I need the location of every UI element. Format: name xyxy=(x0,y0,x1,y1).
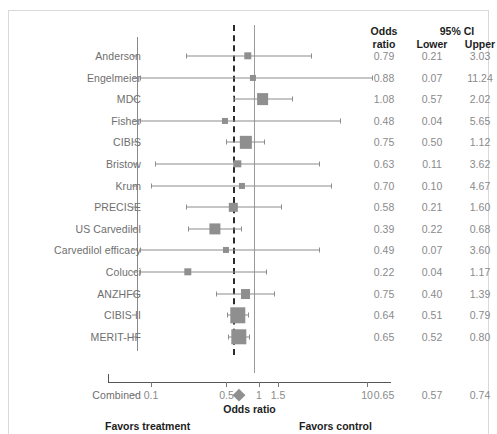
x-tick xyxy=(259,382,260,387)
cell-upper: 3.62 xyxy=(455,158,497,170)
row-tick xyxy=(132,185,137,186)
ci-end-cap xyxy=(331,183,332,188)
ci-end-cap xyxy=(155,162,156,167)
row-tick xyxy=(132,120,137,121)
study-label: Fisher xyxy=(0,115,141,127)
effect-marker xyxy=(250,75,256,81)
cell-upper: 1.39 xyxy=(455,288,497,300)
forest-plot: Odds ratio 95% CI Lower Upper Anderson0.… xyxy=(9,11,490,434)
ci-end-cap xyxy=(281,205,282,210)
ci-end-cap xyxy=(340,118,341,123)
ci-end-cap xyxy=(151,183,152,188)
study-label: Krum xyxy=(0,180,141,192)
row-tick xyxy=(132,207,137,208)
cell-upper: 1.12 xyxy=(455,136,497,148)
cell-lower: 0.10 xyxy=(409,180,455,192)
study-label: MERIT-HF xyxy=(0,331,141,343)
cell-or: 1.08 xyxy=(361,93,407,105)
cell-upper: 5.65 xyxy=(455,115,497,127)
x-tick xyxy=(226,382,227,387)
cell-or: 0.49 xyxy=(361,244,407,256)
cell-or: 0.22 xyxy=(361,266,407,278)
row-tick xyxy=(132,77,137,78)
cell-or: 0.63 xyxy=(361,158,407,170)
ci-end-cap xyxy=(228,334,229,339)
ci-end-cap xyxy=(188,226,189,231)
effect-marker xyxy=(222,247,228,253)
cell-or: 0.58 xyxy=(361,201,407,213)
cell-lower: 0.40 xyxy=(409,288,455,300)
confidence-interval-line xyxy=(140,272,266,273)
study-label: Engelmeier xyxy=(0,72,141,84)
clipped-caption-line xyxy=(6,0,491,6)
cell-lower: 0.04 xyxy=(409,115,455,127)
ci-end-cap xyxy=(249,334,250,339)
cell-upper: 0.74 xyxy=(455,389,497,401)
effect-marker xyxy=(184,268,191,275)
ci-end-cap xyxy=(140,248,141,253)
cell-lower: 0.11 xyxy=(409,158,455,170)
header-upper: Upper xyxy=(455,38,497,50)
ci-end-cap xyxy=(292,97,293,102)
row-tick xyxy=(132,99,137,100)
cell-upper: 0.79 xyxy=(455,309,497,321)
effect-marker xyxy=(234,160,241,167)
cell-upper: 2.02 xyxy=(455,93,497,105)
row-tick xyxy=(132,142,137,143)
cell-upper: 1.60 xyxy=(455,201,497,213)
effect-marker xyxy=(229,203,237,211)
study-label: MDC xyxy=(0,93,141,105)
x-axis-left-cap xyxy=(108,374,109,383)
cell-or: 0.65 xyxy=(361,331,407,343)
ci-end-cap xyxy=(186,205,187,210)
x-tick xyxy=(151,382,152,387)
x-tick-label: 10 xyxy=(347,389,387,401)
study-label: CIBIS II xyxy=(0,309,141,321)
confidence-interval-line xyxy=(140,250,319,251)
row-tick xyxy=(132,336,137,337)
favors-treatment-label: Favors treatment xyxy=(105,420,190,432)
study-label: PRECISE xyxy=(0,201,141,213)
ci-end-cap xyxy=(233,97,234,102)
cell-upper: 0.68 xyxy=(455,223,497,235)
cell-upper: 3.60 xyxy=(455,244,497,256)
study-label: Bristow xyxy=(0,158,141,170)
effect-marker xyxy=(222,118,228,124)
effect-marker xyxy=(239,136,251,148)
cell-upper: 0.80 xyxy=(455,331,497,343)
study-label: Combined xyxy=(0,389,141,401)
x-tick-label: 0.1 xyxy=(131,389,171,401)
ci-end-cap xyxy=(227,313,228,318)
ci-end-cap xyxy=(226,140,227,145)
ci-end-cap xyxy=(248,313,249,318)
ci-end-cap xyxy=(186,54,187,59)
row-tick xyxy=(132,56,137,57)
row-tick xyxy=(132,272,137,273)
row-tick xyxy=(132,315,137,316)
ci-end-cap xyxy=(140,270,141,275)
cell-or: 0.70 xyxy=(361,180,407,192)
ci-end-cap xyxy=(264,140,265,145)
header-odds-ratio-line2: ratio xyxy=(361,38,407,50)
cell-lower: 0.21 xyxy=(409,201,455,213)
cell-lower: 0.57 xyxy=(409,93,455,105)
study-label: CIBIS xyxy=(0,136,141,148)
x-tick xyxy=(278,382,279,387)
effect-marker xyxy=(230,307,245,322)
cell-upper: 1.17 xyxy=(455,266,497,278)
ci-end-cap xyxy=(216,291,217,296)
cell-or: 0.48 xyxy=(361,115,407,127)
ci-end-cap xyxy=(319,248,320,253)
effect-marker xyxy=(257,93,269,105)
effect-marker xyxy=(239,183,245,189)
cell-lower: 0.52 xyxy=(409,331,455,343)
header-lower: Lower xyxy=(409,38,455,50)
ci-end-cap xyxy=(311,54,312,59)
x-axis-title: Odds ratio xyxy=(9,403,490,415)
x-tick xyxy=(367,382,368,387)
header-95-ci: 95% CI xyxy=(409,25,497,37)
cell-or: 0.79 xyxy=(361,50,407,62)
ci-end-cap xyxy=(241,226,242,231)
summary-effect-dashed-line xyxy=(233,25,235,355)
effect-marker xyxy=(244,52,251,59)
